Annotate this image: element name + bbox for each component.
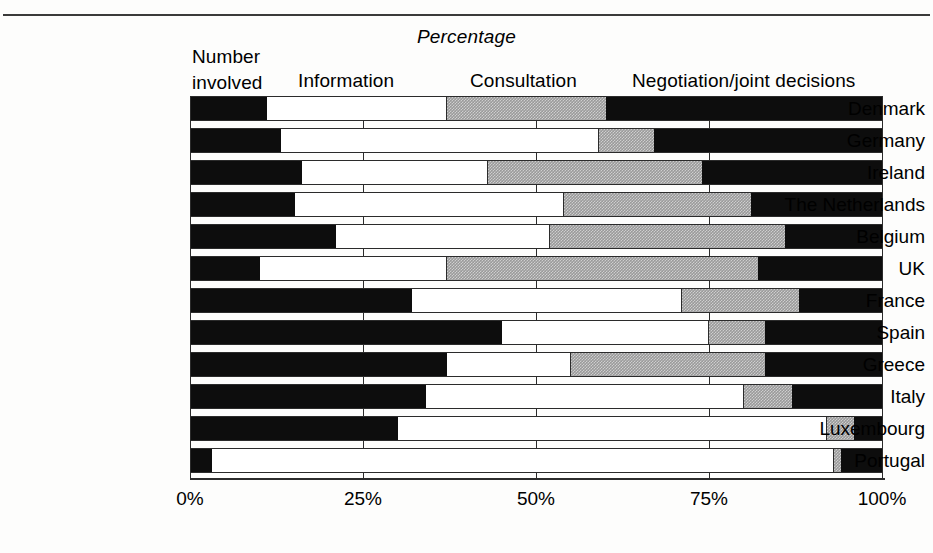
segment-number-involved[interactable] xyxy=(191,417,398,440)
segment-information[interactable] xyxy=(267,97,447,120)
segment-consultation[interactable] xyxy=(571,353,764,376)
segment-information[interactable] xyxy=(447,353,571,376)
x-tick-label-75: 75% xyxy=(690,488,728,510)
category-label: UK xyxy=(751,258,933,280)
category-label: Greece xyxy=(751,354,933,376)
category-label: Italy xyxy=(751,386,933,408)
segment-number-involved[interactable] xyxy=(191,353,447,376)
category-label: Portugal xyxy=(751,450,933,472)
segment-information[interactable] xyxy=(302,161,489,184)
segment-information[interactable] xyxy=(412,289,681,312)
segment-consultation[interactable] xyxy=(447,257,758,280)
segment-consultation[interactable] xyxy=(564,193,751,216)
segment-information[interactable] xyxy=(295,193,564,216)
segment-number-involved[interactable] xyxy=(191,129,281,152)
segment-consultation[interactable] xyxy=(599,129,654,152)
segment-information[interactable] xyxy=(260,257,447,280)
segment-number-involved[interactable] xyxy=(191,321,502,344)
x-tick-label-0: 0% xyxy=(176,488,203,510)
segment-information[interactable] xyxy=(212,449,834,472)
segment-consultation[interactable] xyxy=(488,161,702,184)
column-header-number-involved-line1: Number xyxy=(192,44,302,70)
x-tick-label-100: 100% xyxy=(858,488,907,510)
segment-number-involved[interactable] xyxy=(191,161,302,184)
segment-number-involved[interactable] xyxy=(191,289,412,312)
category-label: Belgium xyxy=(751,226,933,248)
chart-title: Percentage xyxy=(0,26,933,48)
segment-number-involved[interactable] xyxy=(191,97,267,120)
x-tick-label-50: 50% xyxy=(517,488,555,510)
top-divider xyxy=(3,14,930,16)
column-header-information: Information xyxy=(298,70,394,92)
segment-number-involved[interactable] xyxy=(191,385,426,408)
segment-number-involved[interactable] xyxy=(191,225,336,248)
x-axis-line xyxy=(190,478,885,480)
category-label: The Netherlands xyxy=(751,194,933,216)
x-tick-label-25: 25% xyxy=(344,488,382,510)
segment-information[interactable] xyxy=(336,225,550,248)
segment-consultation[interactable] xyxy=(447,97,606,120)
category-label: Ireland xyxy=(751,162,933,184)
category-label: Luxembourg xyxy=(751,418,933,440)
segment-number-involved[interactable] xyxy=(191,257,260,280)
column-header-number-involved-line2: involved xyxy=(192,70,302,96)
segment-information[interactable] xyxy=(281,129,599,152)
segment-information[interactable] xyxy=(502,321,709,344)
segment-information[interactable] xyxy=(426,385,744,408)
category-label: Spain xyxy=(751,322,933,344)
column-header-negotiation: Negotiation/joint decisions xyxy=(632,70,855,92)
figure-panel: Percentage Number involved Information C… xyxy=(0,0,933,553)
category-label: Germany xyxy=(751,130,933,152)
segment-consultation[interactable] xyxy=(550,225,785,248)
segment-number-involved[interactable] xyxy=(191,193,295,216)
category-label: Denmark xyxy=(751,98,933,120)
column-header-consultation: Consultation xyxy=(470,70,577,92)
category-label: France xyxy=(751,290,933,312)
column-header-number-involved: Number involved xyxy=(192,44,302,96)
segment-number-involved[interactable] xyxy=(191,449,212,472)
